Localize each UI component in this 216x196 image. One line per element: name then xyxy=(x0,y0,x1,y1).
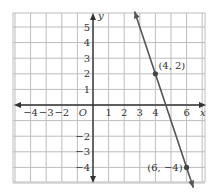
y-tick-label: 5 xyxy=(84,22,90,33)
x-tick-label: 4 xyxy=(152,107,158,118)
x-tick-label: 1 xyxy=(105,107,111,118)
y-tick-label: 3 xyxy=(84,53,90,64)
y-tick-label: 4 xyxy=(84,37,90,48)
y-tick-label: 2 xyxy=(84,68,90,79)
data-point xyxy=(153,71,158,76)
y-tick-label: −4 xyxy=(75,162,90,173)
y-axis-arrow-up-icon xyxy=(90,13,96,20)
point-label: (6, −4) xyxy=(147,162,182,173)
y-axis-label: y xyxy=(97,10,104,21)
graphed-line xyxy=(135,11,194,187)
y-tick-label: −2 xyxy=(75,131,90,142)
line-arrow-down-icon xyxy=(188,180,194,188)
x-axis-label: x xyxy=(200,107,206,118)
y-tick-label: −3 xyxy=(75,146,90,157)
x-tick-label: 2 xyxy=(121,107,127,118)
point-label: (4, 2) xyxy=(158,60,185,71)
x-tick-label: −3 xyxy=(39,107,54,118)
x-tick-label: −4 xyxy=(23,107,38,118)
origin-label: O xyxy=(79,107,87,118)
x-tick-label: 3 xyxy=(137,107,143,118)
x-tick-label: −2 xyxy=(54,107,69,118)
x-tick-label: 6 xyxy=(183,107,189,118)
coordinate-plane: −4−3−21234654321−2−3−4Oxy(4, 2)(6, −4) xyxy=(0,0,216,196)
data-point xyxy=(184,165,189,170)
y-tick-label: 1 xyxy=(84,84,90,95)
